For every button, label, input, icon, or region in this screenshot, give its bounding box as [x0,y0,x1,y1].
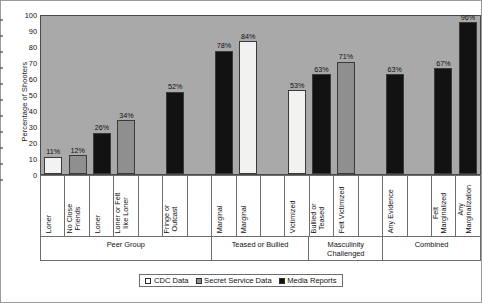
bar[interactable]: 78% [215,51,233,174]
y-axis-tick-mark [0,116,3,117]
bar-value-label: 78% [217,41,231,50]
category-label: No CloseFriends [65,203,81,233]
legend-item[interactable]: CDC Data [145,276,188,285]
category-label-cell: No CloseFriends [65,176,89,236]
bar-value-label: 53% [290,81,304,90]
y-axis-tick-label: 30 [3,123,37,132]
bar-slot-empty [261,16,285,174]
bar-slot-empty [358,16,382,174]
bar-slot: 78% [212,16,236,174]
category-label: Marginal [240,205,248,233]
legend-label: Media Reports [287,276,336,285]
y-axis-tick-label: 0 [3,171,37,180]
bar-slot: 96% [456,16,480,174]
bar[interactable]: 67% [434,68,452,174]
legend-label: CDC Data [154,276,189,285]
bar-value-label: 63% [314,65,328,74]
y-axis-tick-label: 50 [3,91,37,100]
category-label-cell: Bullied orTeased [310,176,334,236]
category-label-cell: Fringe orOutcast [163,176,187,236]
category-label: Loner [93,215,101,233]
bar-value-label: 63% [387,65,401,74]
bar-value-label: 34% [119,111,133,120]
bar[interactable]: 96% [459,22,477,174]
category-label: Felt Victimized [338,186,346,233]
group-label: Peer Group [41,237,212,260]
category-label-cell-empty [139,176,163,236]
category-label-cell: FeltMarginalized [432,176,456,236]
legend-item[interactable]: Secret Service Data [196,276,272,285]
category-label-cell: Loner [90,176,114,236]
bar-value-label: 12% [70,146,84,155]
bar[interactable]: 34% [117,120,135,174]
y-axis-tick-mark [0,180,3,181]
y-axis-tick-label: 60 [3,75,37,84]
bar-slot: 63% [382,16,406,174]
y-axis-tick-label: 10 [3,155,37,164]
group-label: Combined [383,237,481,260]
bar[interactable]: 26% [93,133,111,174]
category-label: Victimized [289,200,297,233]
category-label-cell: Felt Victimized [334,176,358,236]
group-label-text: Teased or Bullied [232,240,289,249]
bar-value-label: 52% [168,82,182,91]
legend-swatch-media [279,278,285,284]
y-axis-tick-label: 80 [3,43,37,52]
group-label-row: Peer GroupTeased or BulliedMasculinity C… [40,237,481,261]
bar[interactable]: 53% [288,90,306,174]
y-axis-tick-mark [0,148,3,149]
category-label-row: LonerNo CloseFriendsLonerLoner or Feltli… [40,175,481,237]
bar-series-container: 11%12%26%34%52%78%84%53%63%71%63%67%96% [41,16,480,174]
bar-slot: 52% [163,16,187,174]
bar[interactable]: 84% [239,41,257,174]
bar[interactable]: 71% [337,62,355,174]
bar-value-label: 84% [241,32,255,41]
chart-figure: Percentage of Shooters 01020304050607080… [0,0,482,303]
category-label: Bullied orTeased [310,203,326,233]
y-axis-tick-mark [0,164,3,165]
bar[interactable]: 63% [312,74,330,174]
y-axis-tick-mark [0,20,3,21]
category-label: Marginal [216,205,224,233]
bar[interactable]: 63% [386,74,404,174]
category-label: Fringe orOutcast [163,204,179,233]
group-label: Teased or Bullied [212,237,310,260]
bar[interactable]: 11% [44,157,62,174]
legend-label: Secret Service Data [204,276,272,285]
bar-slot: 63% [309,16,333,174]
bar-slot: 34% [114,16,138,174]
y-axis-tick-mark [0,132,3,133]
category-label-cell: Victimized [285,176,309,236]
bar-slot: 67% [431,16,455,174]
bar-slot-empty [407,16,431,174]
y-axis-tick-label: 100 [3,11,37,20]
bar-slot-empty [139,16,163,174]
y-axis-tick-mark [0,52,3,53]
category-label-cell-empty [188,176,212,236]
y-axis-tick-mark [0,100,3,101]
chart-legend: CDC DataSecret Service DataMedia Reports [1,274,481,287]
bar[interactable]: 52% [166,92,184,174]
y-axis-tick-mark [0,68,3,69]
bar[interactable]: 12% [69,155,87,174]
bar-slot: 84% [236,16,260,174]
bar-value-label: 67% [436,59,450,68]
y-axis-tick-label: 90 [3,27,37,36]
bar-slot: 53% [285,16,309,174]
bar-value-label: 96% [461,13,475,22]
bar-slot: 71% [334,16,358,174]
category-label-cell-empty [261,176,285,236]
y-axis-tick-mark [0,84,3,85]
category-label-cell: Loner [41,176,65,236]
category-label-cell-empty [408,176,432,236]
category-label-cell-empty [359,176,383,236]
legend-swatch-cdc [145,278,151,284]
bar-slot-empty [187,16,211,174]
legend-items: CDC DataSecret Service DataMedia Reports [139,274,342,287]
group-label-text: Masculinity Challenged [309,240,382,258]
bar-slot: 11% [41,16,65,174]
category-label-cell: Marginal [237,176,261,236]
category-label-cell: AnyMarginalization [456,176,480,236]
legend-item[interactable]: Media Reports [279,276,337,285]
bar-slot: 12% [65,16,89,174]
